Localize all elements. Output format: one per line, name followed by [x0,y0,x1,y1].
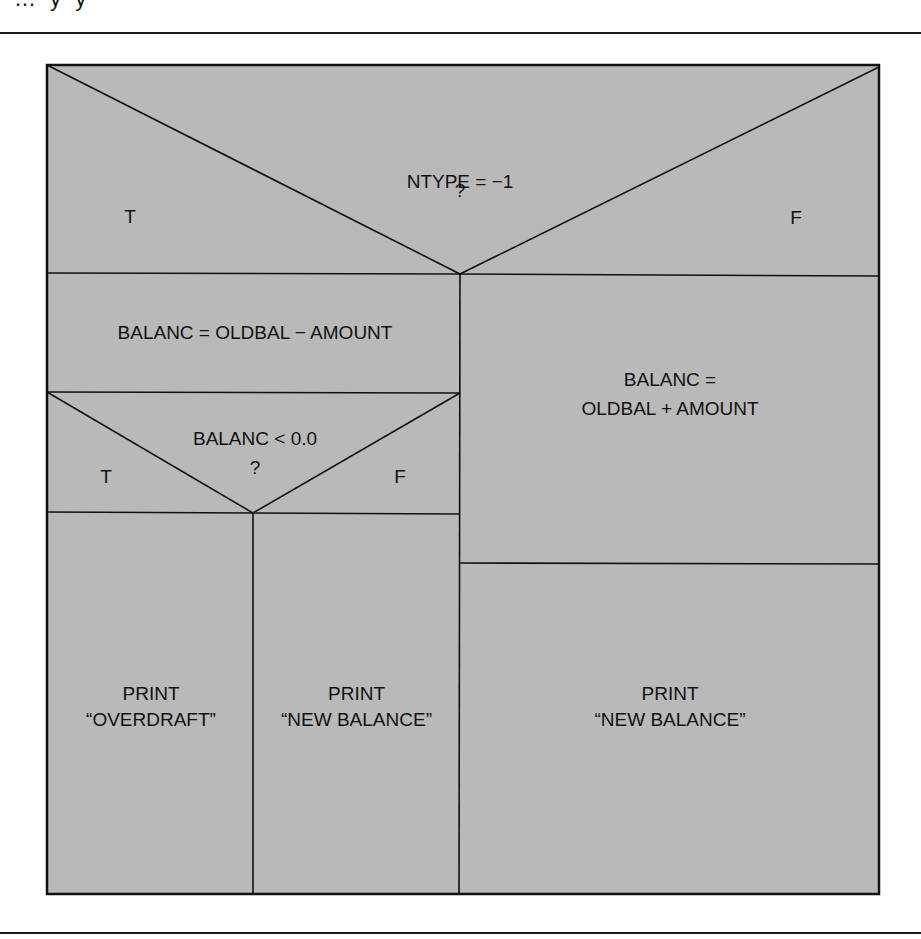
print-overdraft-line1: PRINT [50,682,252,706]
process-add-line2: OLDBAL + AMOUNT [560,397,780,421]
process-right-bottom [460,563,879,564]
process-left-bottom [47,392,460,393]
decision-1-true-label: T [118,205,142,229]
decision-1-question: ? [440,179,480,203]
process-add-line1: BALANC = [560,368,780,392]
bottom-rule [0,932,921,934]
print-new-balance-right-line2: “NEW BALANCE” [560,708,780,732]
decision-1-false-label: F [784,206,808,230]
print-new-balance-left-line1: PRINT [254,682,459,706]
decision-2-condition: BALANC < 0.0 [160,427,350,451]
print-new-balance-left-line2: “NEW BALANCE” [254,708,459,732]
print-overdraft-line2: “OVERDRAFT” [50,708,252,732]
decision-1-base-left [47,273,460,274]
decision-2-true-label: T [94,465,118,489]
nassi-shneiderman-diagram [0,0,921,939]
decision-2-question: ? [240,456,270,480]
decision-2-false-label: F [388,465,412,489]
process-subtract: BALANC = OLDBAL − AMOUNT [60,321,450,345]
print-new-balance-right-line1: PRINT [560,682,780,706]
branch-divider [459,274,460,894]
